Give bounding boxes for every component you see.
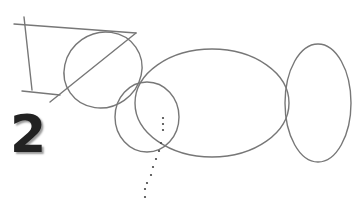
left-line (24, 17, 32, 90)
head-oval (49, 17, 157, 124)
step-number: 2 (10, 108, 46, 160)
body-oval (135, 49, 289, 157)
rear-oval (285, 44, 351, 162)
dotted-guide (144, 117, 164, 198)
neck-circle (115, 82, 179, 152)
bottom-line (22, 91, 60, 95)
diagonal-line (50, 33, 136, 102)
top-line (14, 24, 136, 33)
pencil-sketch (0, 0, 354, 201)
sketch-canvas: 2 (0, 0, 354, 201)
